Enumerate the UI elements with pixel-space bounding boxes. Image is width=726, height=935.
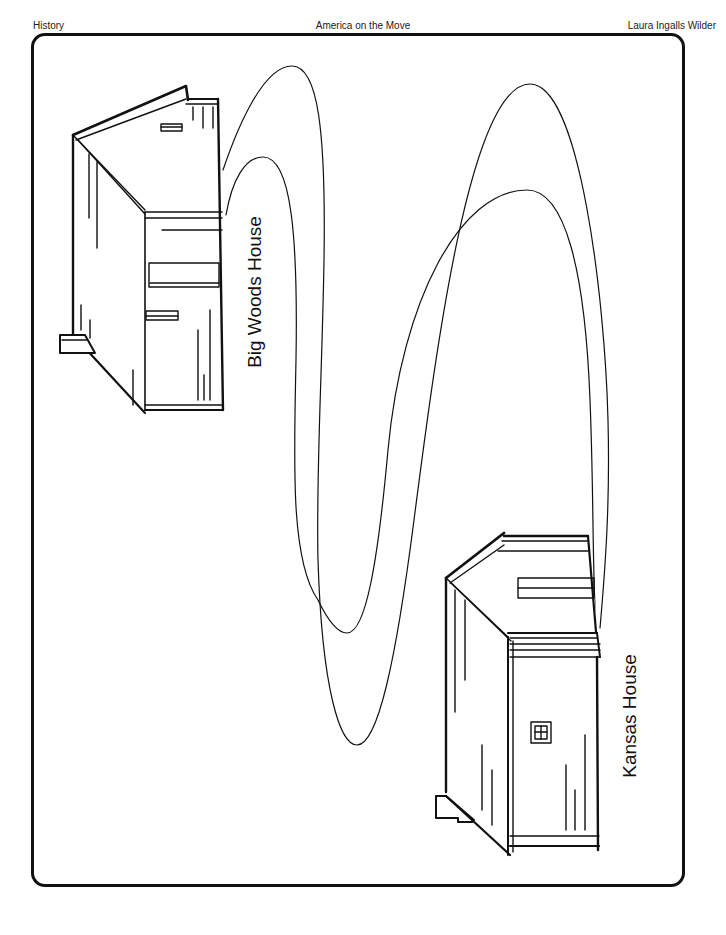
big-woods-house-drawing: [60, 86, 223, 413]
kansas-house-drawing: [436, 533, 600, 855]
big-woods-house-label: Big Woods House: [244, 216, 266, 368]
map-illustration: [0, 0, 726, 935]
kansas-house-label: Kansas House: [619, 654, 641, 778]
